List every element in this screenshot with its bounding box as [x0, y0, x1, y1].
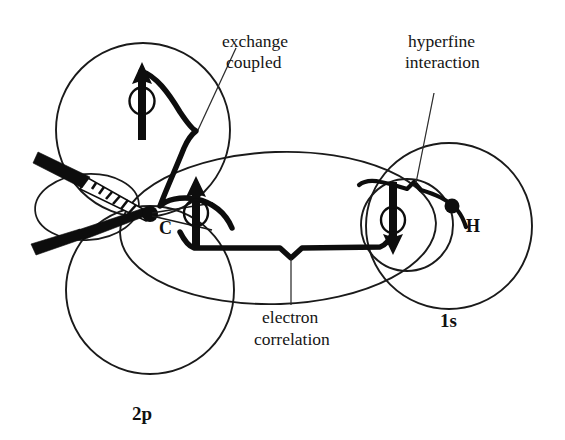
hyperfine-label-line2: interaction [405, 52, 480, 72]
hyperfine-leader [416, 93, 434, 183]
spin-interaction-figure: exchange coupled hyperfine interaction e… [0, 0, 565, 440]
s-orbital-label: 1s [440, 310, 457, 331]
electron-correlation-label-line2: correlation [254, 329, 330, 349]
hydrogen-nucleus-dot [445, 199, 460, 214]
spin-bonding-pair-carbon [184, 176, 208, 248]
diagram-canvas: exchange coupled hyperfine interaction e… [0, 0, 565, 440]
electron-correlation-brace [180, 232, 393, 258]
carbon-nucleus-dot [142, 206, 158, 222]
electron-correlation-label-line1: electron [262, 307, 319, 327]
hyperfine-label-line1: hyperfine [408, 31, 475, 51]
s-orbital-inner-circle [361, 179, 453, 271]
exchange-coupled-label-line1: exchange [222, 31, 288, 51]
hydrogen-atom-label: H [466, 216, 480, 236]
exchange-coupled-label-line2: coupled [226, 52, 282, 72]
p-orbital-label: 2p [132, 403, 152, 424]
carbon-atom-label: C [159, 218, 172, 238]
bond-hashed-wedge [33, 152, 150, 221]
